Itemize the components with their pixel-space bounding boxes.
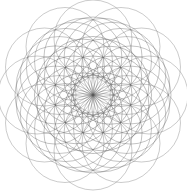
mandala-canvas bbox=[0, 0, 187, 195]
mandala-figure bbox=[0, 0, 187, 195]
